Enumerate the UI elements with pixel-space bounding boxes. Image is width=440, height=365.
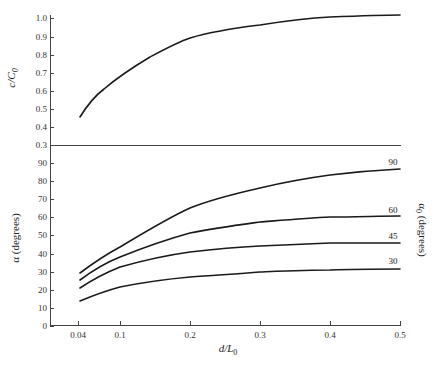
curve-label-90: 90 (389, 157, 399, 167)
alpha-curve-60 (80, 216, 400, 280)
top-y-tick-label: 1.0 (36, 13, 48, 23)
alpha-curve-90 (80, 169, 400, 273)
x-tick-label: 0.3 (254, 330, 266, 340)
x-axis-title: d/L0 (219, 342, 238, 357)
bottom-y-tick-label: 40 (38, 249, 48, 259)
top-y-tick-label: 0.3 (36, 140, 48, 150)
bottom-y-tick-label: 60 (38, 212, 48, 222)
bottom-y-ticks: 9080706050403020100 (38, 158, 54, 331)
bottom-y-tick-label: 80 (38, 176, 48, 186)
chart-canvas: 1.00.90.80.70.60.50.40.3 908070605040302… (0, 0, 440, 365)
bottom-y-tick-label: 10 (38, 303, 48, 313)
bottom-y-tick-label: 70 (38, 194, 48, 204)
curve-label-45: 45 (389, 231, 399, 241)
top-y-tick-label: 0.8 (36, 50, 48, 60)
bottom-y-tick-label: 0 (43, 321, 48, 331)
top-y-tick-label: 0.7 (36, 68, 48, 78)
curve-label-30: 30 (389, 256, 399, 266)
curve-label-60: 60 (389, 205, 399, 215)
alpha-curve-45 (80, 243, 400, 288)
right-y-axis-title: α0 (degrees) (414, 203, 429, 257)
x-tick-label: 0.1 (114, 330, 125, 340)
bottom-y-tick-label: 90 (38, 158, 48, 168)
bottom-y-axis-title: α (degrees) (9, 213, 22, 263)
curve-labels: 90604530 (389, 157, 399, 266)
bottom-y-tick-label: 50 (38, 230, 48, 240)
c-over-c0-curve (80, 15, 400, 117)
x-tick-label: 0.4 (324, 330, 336, 340)
x-tick-label: 0.2 (184, 330, 195, 340)
top-y-tick-label: 0.4 (36, 122, 48, 132)
alpha-curve-30 (80, 269, 400, 301)
x-tick-label: 0.04 (70, 330, 86, 340)
x-tick-label: 0.5 (394, 330, 406, 340)
x-ticks: 0.040.10.20.30.40.5 (70, 321, 406, 340)
top-y-tick-label: 0.9 (36, 32, 48, 42)
top-y-tick-label: 0.6 (36, 86, 48, 96)
top-y-ticks: 1.00.90.80.70.60.50.40.3 (36, 13, 54, 150)
bottom-y-tick-label: 30 (38, 267, 48, 277)
bottom-y-tick-label: 20 (38, 285, 48, 295)
top-y-tick-label: 0.5 (36, 104, 48, 114)
top-y-axis-title: c/C0 (5, 68, 20, 87)
